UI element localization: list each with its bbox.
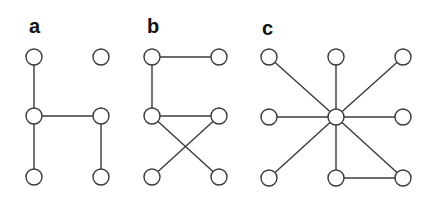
node-b-BR bbox=[211, 169, 227, 185]
node-c-ML bbox=[261, 109, 277, 125]
node-a-ML bbox=[26, 108, 42, 124]
node-a-MR bbox=[93, 108, 109, 124]
edge-c-C-BR bbox=[336, 117, 403, 178]
node-c-TL bbox=[261, 49, 277, 65]
node-c-TR bbox=[395, 49, 411, 65]
node-a-TL bbox=[26, 49, 42, 65]
panel-label-c: c bbox=[262, 18, 273, 38]
node-b-TL bbox=[144, 49, 160, 65]
node-c-BR bbox=[395, 170, 411, 186]
node-a-TR bbox=[93, 49, 109, 65]
node-c-BL bbox=[261, 170, 277, 186]
node-c-MR bbox=[395, 109, 411, 125]
edge-c-C-TL bbox=[269, 57, 336, 117]
panel-label-b: b bbox=[147, 16, 159, 36]
graph-canvas bbox=[0, 0, 431, 201]
edge-c-C-BL bbox=[269, 117, 336, 178]
node-a-BL bbox=[26, 169, 42, 185]
panel-label-a: a bbox=[29, 16, 40, 36]
node-b-MR bbox=[211, 108, 227, 124]
node-c-BC bbox=[328, 170, 344, 186]
graph-figure: a b c bbox=[0, 0, 431, 201]
node-b-TR bbox=[211, 49, 227, 65]
node-c-TC bbox=[328, 49, 344, 65]
node-b-ML bbox=[144, 108, 160, 124]
node-a-BR bbox=[93, 169, 109, 185]
node-b-BL bbox=[144, 169, 160, 185]
node-c-C bbox=[328, 109, 344, 125]
edge-c-C-TR bbox=[336, 57, 403, 117]
